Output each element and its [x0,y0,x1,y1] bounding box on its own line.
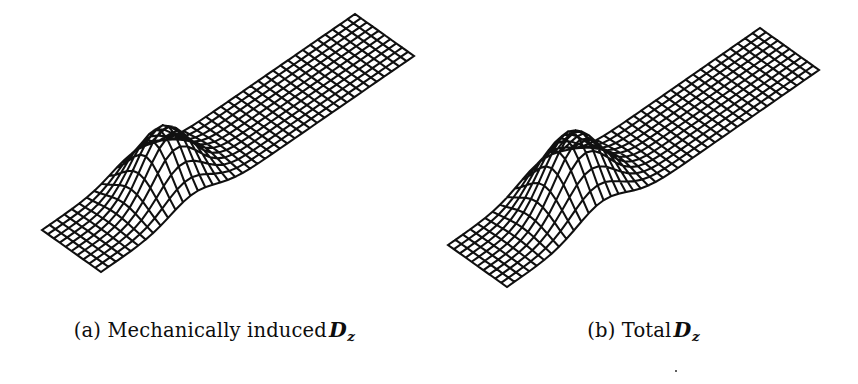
math-subscript-b: z [691,328,699,344]
panel-caption-a: (a) Mechanically inducedDz [0,318,429,344]
panel-total: (b) TotalDz [429,0,858,384]
math-symbol-a: D [327,318,347,342]
panel-mechanically-induced: (a) Mechanically inducedDz [0,0,429,384]
math-subscript-a: z [347,328,355,344]
caption-text-a: Mechanically induced [107,319,326,342]
mesh-surface-plot-a [0,0,429,300]
panel-caption-b: (b) TotalDz [429,318,858,344]
caption-label-b: (b) [587,319,615,342]
figure-root: (a) Mechanically inducedDz (b) TotalDz [0,0,858,384]
caption-text-b: Total [622,319,672,342]
scan-speck [675,370,677,372]
mesh-surface-plot-b [429,0,858,300]
math-symbol-b: D [671,318,691,342]
caption-label-a: (a) [74,319,101,342]
